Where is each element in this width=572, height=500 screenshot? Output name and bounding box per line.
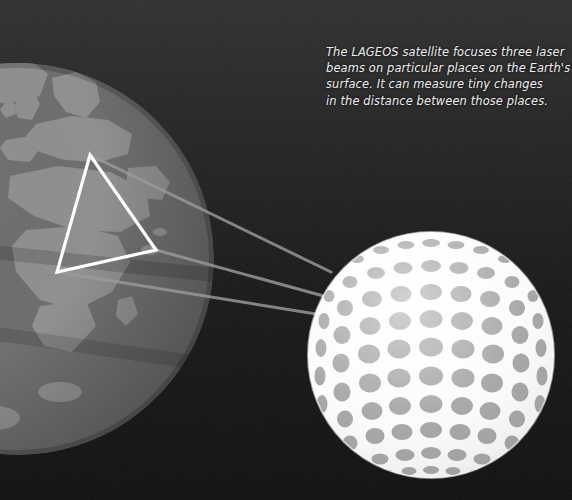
satellite-retroreflectors [300,224,566,490]
caption-line-2: beams on particular places on the Earth'… [326,60,562,76]
caption: The LAGEOS satellite focuses three laser… [326,44,562,109]
illustration-scene: The LAGEOS satellite focuses three laser… [0,0,572,500]
caption-line-3: surface. It can measure tiny changes [326,76,562,92]
satellite-highlight-wash [300,224,566,490]
caption-line-1: The LAGEOS satellite focuses three laser [326,44,562,60]
caption-line-4: in the distance between those places. [326,93,562,109]
